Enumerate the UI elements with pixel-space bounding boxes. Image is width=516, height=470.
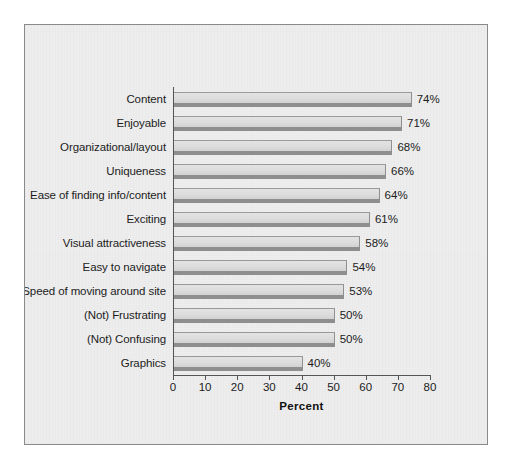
- category-label: Ease of finding info/content: [30, 189, 166, 201]
- category-label: Easy to navigate: [83, 261, 166, 273]
- bar-fill: [174, 332, 335, 343]
- bar: 40%: [174, 356, 303, 371]
- bar: 68%: [174, 140, 392, 155]
- bar-row: Speed of moving around site53%: [173, 279, 430, 303]
- bar-row: Uniqueness66%: [173, 159, 430, 183]
- bar-shadow: [174, 223, 370, 227]
- bar-shadow: [174, 295, 344, 299]
- bar-fill: [174, 236, 360, 247]
- plot-area: Content74%Enjoyable71%Organizational/lay…: [173, 87, 430, 375]
- category-label: Organizational/layout: [60, 141, 166, 153]
- bar-value-label: 64%: [385, 189, 408, 201]
- bar: 66%: [174, 164, 386, 179]
- bar-fill: [174, 284, 344, 295]
- x-tick: [398, 375, 399, 380]
- bar-value-label: 53%: [349, 285, 372, 297]
- bar-shadow: [174, 247, 360, 251]
- bar-value-label: 71%: [407, 117, 430, 129]
- x-tick-label: 0: [170, 381, 176, 393]
- bar-shadow: [174, 151, 392, 155]
- bar-value-label: 66%: [391, 165, 414, 177]
- x-tick: [237, 375, 238, 380]
- x-tick: [366, 375, 367, 380]
- bar: 50%: [174, 332, 335, 347]
- bar-fill: [174, 260, 347, 271]
- category-label: Speed of moving around site: [24, 285, 166, 297]
- bar-row: Visual attractiveness58%: [173, 231, 430, 255]
- bar-row: Organizational/layout68%: [173, 135, 430, 159]
- bar-row: Content74%: [173, 87, 430, 111]
- bar-shadow: [174, 127, 402, 131]
- bar-shadow: [174, 319, 335, 323]
- category-label: Exciting: [127, 213, 166, 225]
- bar-fill: [174, 116, 402, 127]
- bar: 61%: [174, 212, 370, 227]
- x-tick: [302, 375, 303, 380]
- bar-value-label: 54%: [352, 261, 375, 273]
- bar-row: Graphics40%: [173, 351, 430, 375]
- bar-value-label: 68%: [397, 141, 420, 153]
- bar-fill: [174, 140, 392, 151]
- category-label: Visual attractiveness: [63, 237, 166, 249]
- x-tick-label: 80: [424, 381, 437, 393]
- x-tick: [205, 375, 206, 380]
- bar-value-label: 50%: [340, 309, 363, 321]
- bar-value-label: 50%: [340, 333, 363, 345]
- x-tick-label: 20: [231, 381, 244, 393]
- bar-row: Enjoyable71%: [173, 111, 430, 135]
- bar-shadow: [174, 175, 386, 179]
- x-tick-label: 40: [295, 381, 308, 393]
- bar-row: Ease of finding info/content64%: [173, 183, 430, 207]
- x-axis-title: Percent: [173, 400, 430, 412]
- x-tick-label: 10: [199, 381, 212, 393]
- category-label: Enjoyable: [116, 117, 166, 129]
- x-tick: [334, 375, 335, 380]
- chart-figure: Content74%Enjoyable71%Organizational/lay…: [24, 24, 488, 445]
- bar-shadow: [174, 271, 347, 275]
- bar-shadow: [174, 103, 412, 107]
- category-label: Graphics: [121, 357, 166, 369]
- x-tick-label: 60: [359, 381, 372, 393]
- bar-value-label: 40%: [308, 357, 331, 369]
- bar-row: Easy to navigate54%: [173, 255, 430, 279]
- bar-fill: [174, 164, 386, 175]
- category-label: Content: [126, 93, 166, 105]
- bar-fill: [174, 212, 370, 223]
- x-tick-label: 50: [327, 381, 340, 393]
- bar-shadow: [174, 367, 303, 371]
- bar-fill: [174, 308, 335, 319]
- bar: 64%: [174, 188, 380, 203]
- x-tick: [430, 375, 431, 380]
- x-tick: [269, 375, 270, 380]
- bar-value-label: 58%: [365, 237, 388, 249]
- bar: 74%: [174, 92, 412, 107]
- bar: 53%: [174, 284, 344, 299]
- bar: 54%: [174, 260, 347, 275]
- bar-fill: [174, 92, 412, 103]
- bar-value-label: 61%: [375, 213, 398, 225]
- x-tick-label: 30: [263, 381, 276, 393]
- bar: 50%: [174, 308, 335, 323]
- x-tick: [173, 375, 174, 380]
- bar: 71%: [174, 116, 402, 131]
- x-tick-label: 70: [391, 381, 404, 393]
- category-label: (Not) Confusing: [87, 333, 166, 345]
- bar-shadow: [174, 343, 335, 347]
- bar-row: (Not) Frustrating50%: [173, 303, 430, 327]
- bar-fill: [174, 356, 303, 367]
- category-label: (Not) Frustrating: [84, 309, 166, 321]
- bar: 58%: [174, 236, 360, 251]
- bar-shadow: [174, 199, 380, 203]
- category-label: Uniqueness: [106, 165, 166, 177]
- bar-row: (Not) Confusing50%: [173, 327, 430, 351]
- bar-fill: [174, 188, 380, 199]
- bar-value-label: 74%: [417, 93, 440, 105]
- bar-row: Exciting61%: [173, 207, 430, 231]
